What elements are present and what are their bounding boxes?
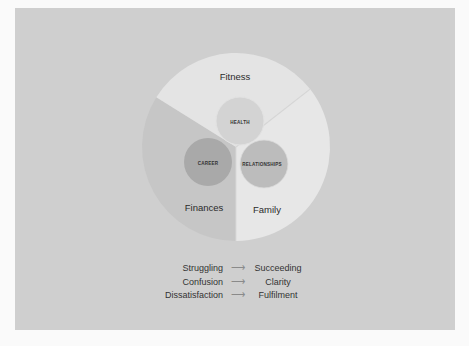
segment-label-fitness: Fitness [220,71,251,82]
segment-label-family: Family [253,204,281,215]
page: Fitness Finances Family HEALTH CAREER RE… [0,0,469,346]
circle-label-relationships: RELATIONSHIPS [242,162,282,167]
life-areas-diagram: Fitness Finances Family HEALTH CAREER RE… [0,0,469,346]
circle-label-health: HEALTH [230,120,250,125]
segment-label-finances: Finances [185,202,224,213]
circle-label-career: CAREER [198,161,219,166]
